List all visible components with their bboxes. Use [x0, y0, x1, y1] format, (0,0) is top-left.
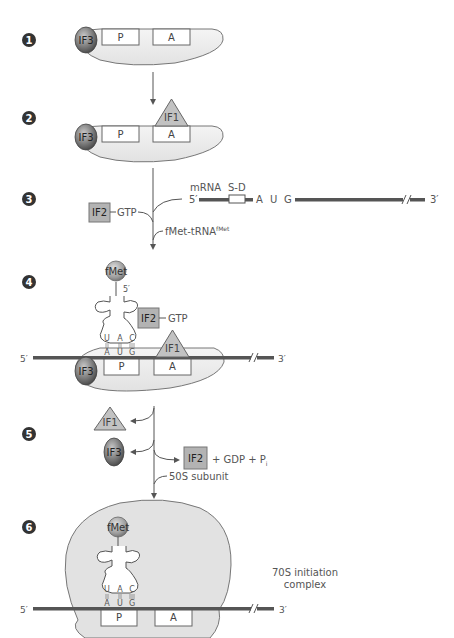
step-number-1: 1: [22, 33, 36, 47]
svg-text:U: U: [104, 585, 110, 594]
svg-text:3′: 3′: [279, 605, 287, 615]
svg-text:IF3: IF3: [106, 447, 121, 458]
svg-text:A: A: [104, 599, 110, 608]
svg-text:5: 5: [26, 429, 33, 440]
svg-text:IF2: IF2: [141, 313, 156, 324]
svg-text:2: 2: [26, 113, 33, 124]
svg-text:A: A: [117, 334, 123, 343]
svg-text:A: A: [168, 32, 175, 43]
svg-text:GTP: GTP: [117, 207, 137, 218]
svg-text:3′: 3′: [278, 354, 286, 364]
step-1-small-subunit: P A IF3: [75, 27, 223, 65]
svg-text:IF1: IF1: [164, 112, 179, 123]
shine-dalgarno-box: [229, 195, 245, 203]
svg-text:U: U: [270, 194, 277, 205]
svg-text:IF1: IF1: [102, 417, 117, 428]
svg-text:A: A: [104, 348, 110, 357]
svg-text:G: G: [129, 348, 135, 357]
svg-text:A: A: [256, 194, 263, 205]
svg-text:mRNA: mRNA: [190, 182, 221, 193]
svg-text:IF2: IF2: [188, 453, 203, 464]
svg-text:U: U: [104, 334, 110, 343]
svg-text:50S subunit: 50S subunit: [169, 471, 229, 482]
svg-text:A: A: [168, 129, 175, 140]
step-3-trna-label: fMet-tRNAfMet: [165, 225, 230, 237]
svg-text:A: A: [117, 585, 123, 594]
svg-text:G: G: [129, 599, 135, 608]
svg-text:A: A: [170, 612, 177, 623]
svg-text:P: P: [116, 612, 122, 623]
complex-label-line2: complex: [284, 579, 326, 590]
step-3-mrna: 5′ mRNA S-D A U G 3′: [189, 182, 439, 205]
svg-text:S-D: S-D: [228, 182, 246, 193]
svg-text:U: U: [117, 348, 123, 357]
svg-text:IF3: IF3: [78, 132, 93, 143]
svg-text:P: P: [118, 361, 124, 372]
step-number-6: 6: [22, 520, 36, 534]
svg-text:U: U: [117, 599, 123, 608]
svg-text:P: P: [117, 129, 123, 140]
step-6-70s-complex: P A 5′ 3′ fMet U A C A U G: [20, 500, 287, 638]
step-3-if2-gtp: IF2 GTP: [89, 203, 137, 222]
svg-text:G: G: [284, 194, 292, 205]
svg-text:fMet: fMet: [105, 266, 127, 277]
step-number-3: 3: [22, 192, 36, 206]
svg-text:+ GDP + Pi: + GDP + Pi: [212, 454, 268, 467]
svg-text:3: 3: [26, 194, 33, 205]
svg-text:5′: 5′: [20, 605, 28, 615]
svg-text:5′: 5′: [20, 354, 28, 364]
svg-text:IF3: IF3: [78, 35, 93, 46]
svg-text:4: 4: [26, 277, 33, 288]
complex-label-line1: 70S initiation: [272, 567, 338, 578]
svg-text:fMet: fMet: [107, 522, 129, 533]
svg-text:3′: 3′: [430, 194, 439, 205]
svg-text:1: 1: [26, 35, 33, 46]
svg-text:6: 6: [26, 522, 33, 533]
svg-text:GTP: GTP: [168, 313, 188, 324]
svg-text:IF3: IF3: [78, 366, 93, 377]
svg-text:5′: 5′: [189, 194, 198, 205]
step-number-5: 5: [22, 427, 36, 441]
svg-text:C: C: [129, 585, 135, 594]
svg-text:fMet-tRNAfMet: fMet-tRNAfMet: [165, 225, 230, 237]
step-4-complex: P A 5′ 3′ IF1 IF3 fMet 5′ U A C A: [20, 261, 286, 391]
translation-initiation-diagram: 1 2 3 4 5 6 P A IF3 P A IF1 I: [0, 0, 454, 638]
svg-text:IF1: IF1: [165, 343, 180, 354]
svg-text:IF2: IF2: [92, 207, 107, 218]
svg-text:C: C: [129, 334, 135, 343]
step-2-small-subunit: P A IF1 IF3: [75, 99, 223, 162]
step-number-4: 4: [22, 275, 36, 289]
svg-text:A: A: [169, 361, 176, 372]
step-5-released-factors: IF1 IF3 IF2 + GDP + Pi 50S subunit: [94, 407, 268, 482]
svg-text:5′: 5′: [123, 285, 130, 294]
step-number-2: 2: [22, 111, 36, 125]
svg-text:P: P: [117, 32, 123, 43]
